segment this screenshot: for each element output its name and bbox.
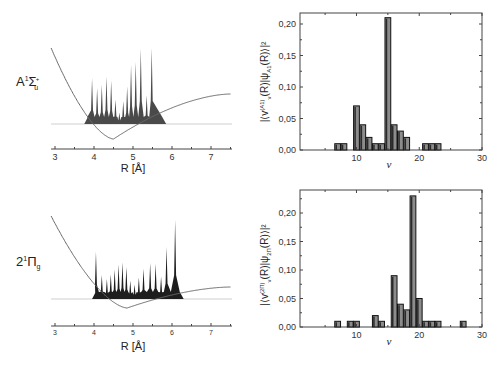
x-tick-label: 7 [208,152,213,162]
y-tick-label: 0,05 [278,114,296,124]
y-tick-label: 0,05 [278,294,296,304]
x-tick-label: 4 [91,152,96,162]
state-label-bottom: 21Πg [16,254,41,271]
x-tick-label: 5 [131,329,135,336]
y-tick-label: 0,15 [278,237,296,247]
x-axis-title-bottom-right: ν [387,335,392,347]
x-tick-label: 20 [414,153,424,163]
x-tick-label: 10 [351,330,361,340]
y-axis-title-bottom-right: |⟨v(2Π)ν(R)|ψ2Π(R)⟩|² [259,224,272,306]
figure-canvas: 34567 A1Σ+u R [Å] 34567 21Πg R [Å] 0,000… [0,0,501,367]
x-tick-label: 6 [169,152,174,162]
x-tick-label: 6 [170,329,174,336]
x-axis-title-top-left: R [Å] [121,162,145,174]
potential-panel-top: 34567 [51,48,232,162]
y-tick-label: 0,00 [278,145,296,155]
x-tick-label: 4 [92,329,96,336]
potential-panel-bottom: 34567 [51,216,232,336]
x-tick-label: 5 [130,152,135,162]
x-tick-label: 10 [351,153,361,163]
x-tick-label: 30 [477,153,487,163]
x-tick-label: 20 [414,330,424,340]
x-axis-title-bottom-left: R [Å] [121,340,145,352]
overlap-bar-chart-top: 0,000,050,100,150,20102030 [278,13,487,163]
y-tick-label: 0,15 [278,51,296,61]
x-tick-label: 30 [477,330,487,340]
y-tick-label: 0,20 [278,19,296,29]
wavefunction-density [84,48,166,124]
x-tick-label: 3 [52,152,57,162]
x-axis-title-top-right: ν [387,158,392,170]
y-tick-label: 0,10 [278,265,296,275]
y-tick-label: 0,10 [278,82,296,92]
overlap-bar-chart-bottom: 0,000,050,100,150,20102030 [278,190,487,340]
state-label-top: A1Σ+u [16,74,40,91]
y-tick-label: 0,20 [278,208,296,218]
x-tick-label: 3 [53,329,57,336]
y-tick-label: 0,00 [278,322,296,332]
x-tick-label: 7 [209,329,213,336]
y-axis-title-top-right: |⟨v(A1)ν(R)|ψA1(R)⟩|² [259,41,272,122]
wavefunction-density [92,220,184,299]
